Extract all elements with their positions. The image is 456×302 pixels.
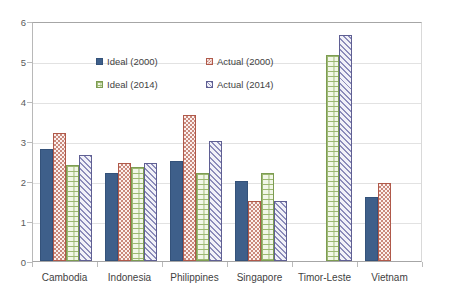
legend-label: Actual (2014) <box>217 79 274 90</box>
y-tick-label: 4 <box>2 97 26 108</box>
y-tick-label: 6 <box>2 17 26 28</box>
bar-group <box>365 23 417 261</box>
y-tick-label: 1 <box>2 217 26 228</box>
x-tick-label: Cambodia <box>42 272 88 283</box>
x-tick-mark <box>162 262 163 267</box>
x-tick-label: Timor-Leste <box>298 272 351 283</box>
y-tick-label: 3 <box>2 137 26 148</box>
chart-legend: Ideal (2000)Actual (2000)Ideal (2014)Act… <box>96 56 326 90</box>
legend-swatch-icon <box>206 58 213 65</box>
bar <box>209 141 222 261</box>
bar <box>170 161 183 261</box>
x-tick-mark <box>97 262 98 267</box>
x-tick-label: Singapore <box>237 272 283 283</box>
bar-group <box>40 23 92 261</box>
legend-item-ideal2000[interactable]: Ideal (2000) <box>96 56 206 67</box>
x-tick-label: Philippines <box>170 272 218 283</box>
legend-item-actual2000[interactable]: Actual (2000) <box>206 56 326 67</box>
y-tick-label: 5 <box>2 57 26 68</box>
bar <box>274 201 287 261</box>
bar <box>235 181 248 261</box>
bar <box>326 55 339 261</box>
x-tick-mark <box>357 262 358 267</box>
bar <box>378 183 391 261</box>
x-tick-mark <box>422 262 423 267</box>
bar <box>66 165 79 261</box>
bar <box>365 197 378 261</box>
bar <box>105 173 118 261</box>
y-tick-label: 0 <box>2 257 26 268</box>
legend-label: Ideal (2000) <box>107 56 158 67</box>
bar <box>53 133 66 261</box>
bar <box>118 163 131 261</box>
bar <box>248 201 261 261</box>
x-tick-mark <box>32 262 33 267</box>
bar-chart: 0123456 CambodiaIndonesiaPhilippinesSing… <box>0 0 456 302</box>
bar <box>144 163 157 261</box>
bar <box>183 115 196 261</box>
bar <box>40 149 53 261</box>
legend-swatch-icon <box>206 81 213 88</box>
bar <box>196 173 209 261</box>
bar <box>261 173 274 261</box>
legend-item-ideal2014[interactable]: Ideal (2014) <box>96 79 206 90</box>
legend-item-actual2014[interactable]: Actual (2014) <box>206 79 326 90</box>
x-tick-label: Vietnam <box>371 272 408 283</box>
bar <box>79 155 92 261</box>
x-tick-mark <box>227 262 228 267</box>
x-tick-mark <box>292 262 293 267</box>
bar <box>339 35 352 261</box>
legend-swatch-icon <box>96 58 103 65</box>
legend-swatch-icon <box>96 81 103 88</box>
bar <box>131 167 144 261</box>
legend-label: Actual (2000) <box>217 56 274 67</box>
y-tick-label: 2 <box>2 177 26 188</box>
x-tick-label: Indonesia <box>108 272 151 283</box>
legend-label: Ideal (2014) <box>107 79 158 90</box>
